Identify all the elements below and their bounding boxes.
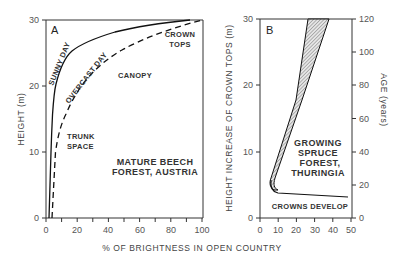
panel-a-title-1: MATURE BEECH [117,157,194,167]
panel-b-ytick-10: 10 [243,147,253,157]
panel-a-xtick-0: 0 [43,225,48,235]
panel-b-xtick-0: 0 [257,225,262,235]
crowns-develop-curve [271,180,348,197]
crown-tops-label-2: TOPS [169,40,190,49]
panel-b-y2tick-20: 20 [359,180,369,190]
crowns-develop-label: CROWNS DEVELOP [272,202,348,211]
panel-b-y2-ticks [352,19,356,218]
panel-a-xtick-100: 100 [194,225,209,235]
panel-a-x-ticks [46,218,202,222]
panel-b: 30 20 10 0 120 100 80 60 40 20 0 [224,14,389,235]
overcast-day-label: OVERCAST DAY [63,50,109,105]
panel-b-y2-label: AGE (years) [379,73,389,126]
panel-b-title-1: GROWING [294,138,342,148]
panel-b-title-3: FOREST, [300,158,341,168]
panel-b-y2tick-80: 80 [359,80,369,90]
canopy-label: CANOPY [118,71,152,80]
panel-b-ytick-20: 20 [243,80,253,90]
panel-b-x-ticks [260,218,351,222]
panel-a-title-2: FOREST, AUSTRIA [112,167,198,177]
panel-a-letter: A [51,24,59,36]
trunk-space-label-1: TRUNK [67,132,95,141]
panel-a-xtick-80: 80 [166,225,176,235]
panel-a-y-ticks: 30 20 10 0 [29,15,46,223]
panel-a-ytick-30: 30 [29,15,39,25]
sunny-day-curve [49,20,190,218]
panel-b-xtick-30: 30 [310,225,320,235]
panel-b-xtick-10: 10 [273,225,283,235]
panel-b-y2tick-100: 100 [359,47,374,57]
panel-b-ytick-0: 0 [248,213,253,223]
panel-b-xtick-40: 40 [328,225,338,235]
panel-b-y2tick-0: 0 [359,213,364,223]
panel-a-xtick-40: 40 [103,225,113,235]
panel-b-y-ticks [256,19,260,218]
panel-a-xtick-20: 20 [72,225,82,235]
panel-b-title-4: THURINGIA [291,168,345,178]
panel-b-letter: B [266,24,273,36]
panel-b-y-label: HEIGHT INCREASE OF CROWN TOPS (m) [224,24,234,211]
shared-x-label: % OF BRIGHTNESS IN OPEN COUNTRY [102,243,282,253]
panel-b-y2tick-120: 120 [359,14,374,24]
panel-a-ytick-20: 20 [29,81,39,91]
panel-a-ytick-0: 0 [34,213,39,223]
panel-a-y-label: HEIGHT (m) [16,92,26,145]
panel-b-ytick-30: 30 [243,14,253,24]
panel-a-ytick-10: 10 [29,147,39,157]
sunny-day-label: SUNNY DAY [47,41,73,87]
figure: 30 20 10 0 0 20 40 60 80 100 HEIGHT (m) [0,0,400,261]
panel-b-y2tick-60: 60 [359,114,369,124]
panel-b-y2tick-40: 40 [359,147,369,157]
panel-b-xtick-50: 50 [346,225,356,235]
trunk-space-label-2: SPACE [67,142,94,151]
panel-b-title-2: SPRUCE [298,148,338,158]
crown-tops-label-1: CROWN [165,30,196,39]
panel-b-xtick-20: 20 [291,225,301,235]
panel-a-xtick-60: 60 [135,225,145,235]
panel-a: 30 20 10 0 0 20 40 60 80 100 HEIGHT (m) [16,15,210,235]
